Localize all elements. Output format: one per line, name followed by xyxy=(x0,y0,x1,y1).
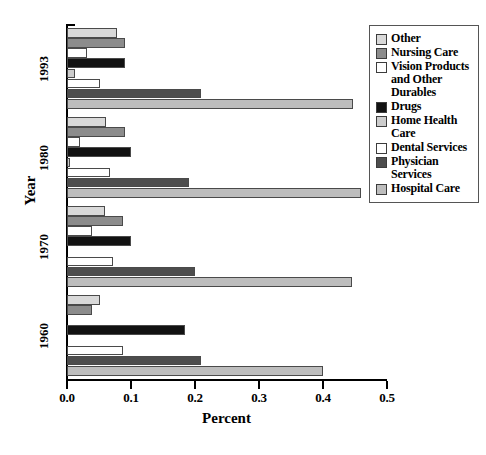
bar-chart: 0.00.10.20.30.40.5 Percent Year 19931980… xyxy=(0,0,486,455)
bar xyxy=(67,137,80,147)
y-axis-group-label: 1960 xyxy=(36,306,52,366)
y-axis-group-label: 1980 xyxy=(36,128,52,188)
x-axis-tick xyxy=(130,381,132,389)
bar xyxy=(67,305,92,315)
bar xyxy=(67,257,113,267)
bar xyxy=(67,178,189,188)
bar xyxy=(67,277,352,287)
bar xyxy=(67,28,117,38)
x-axis-title: Percent xyxy=(66,410,387,427)
bar xyxy=(67,295,100,305)
legend-item[interactable]: Physician Services xyxy=(376,155,474,181)
legend-item-label: Other xyxy=(391,32,421,45)
legend: OtherNursing CareVision Products and Oth… xyxy=(369,25,479,203)
bar xyxy=(67,147,131,157)
bar xyxy=(67,356,201,366)
legend-item-label: Nursing Care xyxy=(391,46,458,59)
legend-item[interactable]: Drugs xyxy=(376,100,474,113)
bar xyxy=(67,58,125,68)
bar xyxy=(67,325,185,335)
x-axis-tick-label: 0.5 xyxy=(367,390,407,406)
bar xyxy=(67,226,92,236)
bar xyxy=(67,48,87,58)
bar xyxy=(67,188,361,198)
legend-item[interactable]: Vision Products and Other Durables xyxy=(376,60,474,99)
bar xyxy=(67,236,131,246)
bar xyxy=(67,99,353,109)
legend-item-label: Hospital Care xyxy=(391,182,460,195)
legend-item-label: Dental Services xyxy=(391,141,467,154)
legend-swatch-icon xyxy=(376,34,387,45)
legend-item-label: Vision Products and Other Durables xyxy=(391,60,474,99)
bar xyxy=(67,117,106,127)
legend-item-label: Physician Services xyxy=(391,155,474,181)
bar xyxy=(67,216,123,226)
bar xyxy=(67,366,323,376)
bar xyxy=(67,89,201,99)
legend-swatch-icon xyxy=(376,62,387,73)
bar xyxy=(67,346,123,356)
bar xyxy=(67,127,125,137)
legend-item[interactable]: Dental Services xyxy=(376,141,474,154)
x-axis-tick-label: 0.2 xyxy=(175,390,215,406)
legend-swatch-icon xyxy=(376,184,387,195)
legend-item-label: Drugs xyxy=(391,100,421,113)
legend-swatch-icon xyxy=(376,143,387,154)
legend-item[interactable]: Nursing Care xyxy=(376,46,474,59)
bar xyxy=(67,79,100,89)
x-axis-tick xyxy=(322,381,324,389)
y-axis-group-label: 1970 xyxy=(36,217,52,277)
legend-swatch-icon xyxy=(376,48,387,59)
bar xyxy=(67,38,125,48)
legend-item-label: Home Health Care xyxy=(391,114,474,140)
x-axis-tick-label: 0.3 xyxy=(239,390,279,406)
plot-area xyxy=(67,24,387,380)
x-axis-tick xyxy=(66,381,68,389)
legend-swatch-icon xyxy=(376,116,387,127)
bar xyxy=(67,69,75,79)
bar xyxy=(67,206,105,216)
x-axis-tick xyxy=(386,381,388,389)
bar xyxy=(67,158,70,168)
x-axis-tick xyxy=(258,381,260,389)
bar xyxy=(67,267,195,277)
legend-item[interactable]: Hospital Care xyxy=(376,182,474,195)
x-axis-tick-label: 0.4 xyxy=(303,390,343,406)
bar xyxy=(67,168,110,178)
x-axis-tick-label: 0.1 xyxy=(111,390,151,406)
x-axis-tick xyxy=(194,381,196,389)
legend-item[interactable]: Home Health Care xyxy=(376,114,474,140)
legend-swatch-icon xyxy=(376,157,387,168)
legend-swatch-icon xyxy=(376,102,387,113)
y-axis-group-label: 1993 xyxy=(36,39,52,99)
x-axis-tick-label: 0.0 xyxy=(47,390,87,406)
legend-item[interactable]: Other xyxy=(376,32,474,45)
